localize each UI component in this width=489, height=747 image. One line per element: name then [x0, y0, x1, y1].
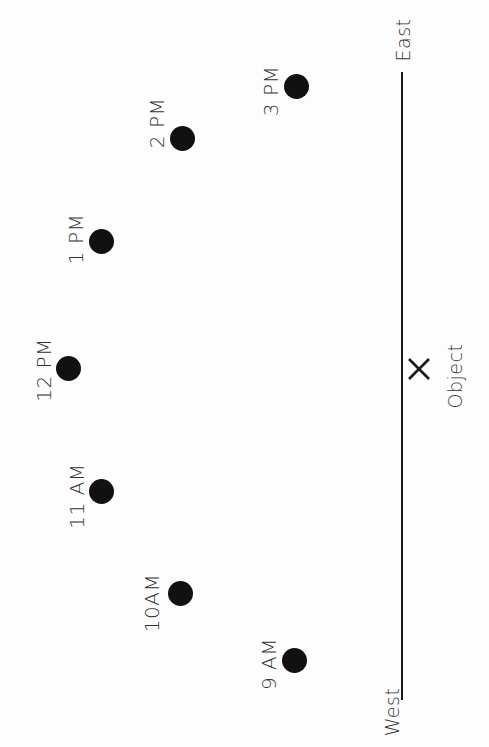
- sun-position-10am: [168, 581, 193, 606]
- time-label-3pm: 3 PM: [259, 56, 283, 126]
- east-west-line: [401, 72, 403, 700]
- sun-position-1pm: [89, 229, 114, 254]
- sun-position-2pm: [170, 126, 195, 151]
- time-label-2pm: 2 PM: [145, 88, 169, 158]
- sun-position-11am: [89, 479, 114, 504]
- time-label-10am: 10AM: [140, 565, 164, 641]
- west-label: West: [380, 684, 404, 740]
- sun-position-9am: [282, 648, 307, 673]
- time-label-11am: 11 AM: [65, 456, 89, 536]
- sun-position-3pm: [284, 74, 309, 99]
- x-mark-icon: [406, 356, 432, 382]
- east-label: East: [391, 15, 415, 65]
- time-label-12pm: 12 PM: [32, 330, 56, 410]
- object-label: Object: [443, 341, 467, 411]
- time-label-9am: 9 AM: [257, 627, 281, 701]
- time-label-1pm: 1 PM: [64, 204, 88, 274]
- sun-position-12pm: [56, 356, 81, 381]
